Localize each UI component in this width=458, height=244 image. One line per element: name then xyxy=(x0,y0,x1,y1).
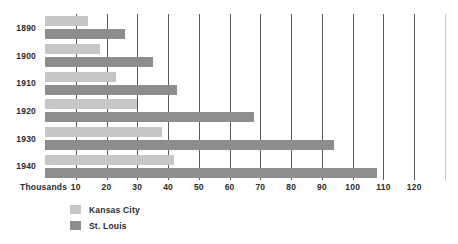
bar-kansas-city-1930 xyxy=(45,127,162,137)
bar-group-1920 xyxy=(45,97,445,125)
bar-kansas-city-1940 xyxy=(45,155,174,165)
x-tick-label-20: 20 xyxy=(102,182,112,192)
x-tick-label-110: 110 xyxy=(376,182,390,192)
gridline-edge xyxy=(445,14,446,180)
x-tick-label-10: 10 xyxy=(71,182,81,192)
bar-group-1940 xyxy=(45,152,445,180)
y-axis-label-1910: 1910 xyxy=(16,78,36,88)
bar-group-1930 xyxy=(45,125,445,153)
x-axis-unit-label: Thousands xyxy=(20,182,67,192)
y-axis-label-1930: 1930 xyxy=(16,134,36,144)
y-axis-label-1890: 1890 xyxy=(16,23,36,33)
bar-st-louis-1910 xyxy=(45,85,177,95)
bar-kansas-city-1920 xyxy=(45,99,137,109)
x-tick-label-120: 120 xyxy=(407,182,422,192)
legend-label: St. Louis xyxy=(89,221,127,231)
bar-chart: 189019001910192019301940 Thousands 10203… xyxy=(0,0,458,244)
x-tick-label-40: 40 xyxy=(163,182,173,192)
y-axis-label-1940: 1940 xyxy=(16,161,36,171)
bar-st-louis-1920 xyxy=(45,112,254,122)
plot-area xyxy=(45,14,445,180)
x-tick-label-90: 90 xyxy=(317,182,327,192)
bar-group-1890 xyxy=(45,14,445,42)
legend-item-kansas-city[interactable]: Kansas City xyxy=(70,203,140,216)
legend-item-st-louis[interactable]: St. Louis xyxy=(70,219,140,232)
bar-kansas-city-1910 xyxy=(45,72,116,82)
y-axis-label-1920: 1920 xyxy=(16,106,36,116)
bars-layer xyxy=(45,14,445,180)
x-tick-label-100: 100 xyxy=(345,182,360,192)
bar-st-louis-1940 xyxy=(45,168,377,178)
bar-st-louis-1930 xyxy=(45,140,334,150)
legend-swatch-icon xyxy=(70,221,81,230)
bar-st-louis-1900 xyxy=(45,57,153,67)
x-tick-label-30: 30 xyxy=(132,182,142,192)
bar-kansas-city-1900 xyxy=(45,44,100,54)
legend-label: Kansas City xyxy=(89,205,140,215)
x-tick-label-60: 60 xyxy=(225,182,235,192)
x-axis: Thousands 102030405060708090100110120 xyxy=(0,180,458,196)
y-axis-category-labels: 189019001910192019301940 xyxy=(0,14,42,180)
legend-swatch-icon xyxy=(70,205,81,214)
y-axis-label-1900: 1900 xyxy=(16,51,36,61)
bar-group-1910 xyxy=(45,69,445,97)
bar-st-louis-1890 xyxy=(45,29,125,39)
legend: Kansas CitySt. Louis xyxy=(70,203,140,235)
bar-group-1900 xyxy=(45,42,445,70)
x-tick-label-70: 70 xyxy=(255,182,265,192)
x-tick-label-80: 80 xyxy=(286,182,296,192)
bar-kansas-city-1890 xyxy=(45,16,88,26)
x-tick-label-50: 50 xyxy=(194,182,204,192)
